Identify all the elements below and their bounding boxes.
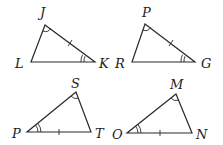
vertex-label-j: J	[37, 5, 46, 20]
vertex-label-g: G	[201, 56, 211, 71]
angle-arc-p-inner	[36, 125, 39, 132]
triangle-spt: S P T	[11, 76, 105, 141]
angle-arc-g-outer	[181, 55, 183, 62]
triangle-mon: M O N	[112, 77, 208, 142]
triangle-prg: P R G	[114, 5, 211, 71]
vertex-label-s: S	[71, 76, 80, 91]
angle-arc-g-inner	[184, 56, 185, 62]
triangle-prg-edges	[132, 24, 195, 62]
angle-arc-s	[71, 96, 78, 99]
angle-arc-k-outer	[81, 55, 83, 62]
vertex-label-t: T	[95, 126, 105, 141]
vertex-label-p2: P	[11, 126, 21, 141]
angle-arc-k-inner	[84, 56, 85, 62]
vertex-label-n: N	[195, 127, 208, 142]
vertex-label-p: P	[141, 5, 151, 20]
triangles-diagram: J L K P R G S P T M O N	[0, 0, 223, 145]
vertex-label-k: K	[98, 56, 110, 71]
vertex-label-m: M	[169, 77, 184, 92]
vertex-label-r: R	[114, 56, 125, 71]
triangle-jlk: J L K	[14, 5, 110, 71]
vertex-label-o: O	[112, 127, 123, 142]
angle-arc-o-inner	[136, 126, 139, 133]
vertex-label-l: L	[14, 56, 24, 71]
angle-arc-m	[171, 98, 178, 101]
triangle-jlk-edges	[31, 25, 95, 62]
